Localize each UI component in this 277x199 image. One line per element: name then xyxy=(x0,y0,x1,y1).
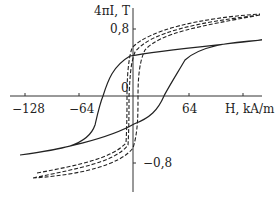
y-tick-label-top: 0,8 xyxy=(110,23,129,35)
y-axis-label: 4πI, T xyxy=(94,5,130,17)
y-tick-label-zero: 0 xyxy=(121,82,129,94)
solid-loop-curve xyxy=(20,40,262,155)
y-tick-label-bottom: −0,8 xyxy=(143,157,172,169)
x-axis-label: H, kA/m xyxy=(225,103,274,115)
x-tick-label-64: 64 xyxy=(182,103,197,115)
x-tick-label-m64: −64 xyxy=(69,103,94,115)
x-tick-label-m128: −128 xyxy=(12,103,45,115)
hysteresis-chart xyxy=(0,0,277,199)
